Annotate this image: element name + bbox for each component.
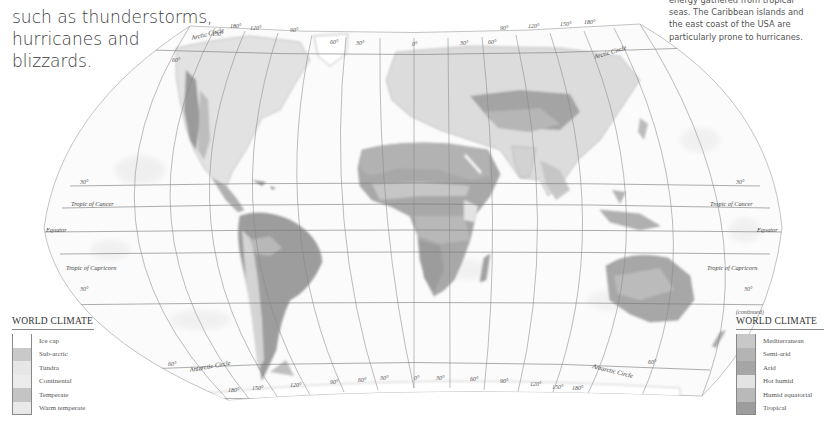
lon-label: 180° [584,19,596,25]
legend-item-tundra: Tundra [12,361,94,375]
legend-label: Tundra [39,364,59,372]
lon-label: 120° [530,381,542,387]
legend-item-humid-equatorial: Humid equatorial [736,388,824,402]
lon-label: 180° [228,387,240,393]
lon-label: 120° [528,23,540,29]
label-lat-30s-left: 30° [79,286,89,292]
legend-world-climate: WORLD CLIMATE Ice cap Sub-arctic Tundra … [12,316,94,415]
legend-item-mediterranean: Mediterranean [736,334,824,348]
legend-item-temperate: Temperate [12,388,94,402]
label-tropic-of-cancer-right: Tropic of Cancer [710,200,753,207]
legend-label: Semi-arid [763,350,791,358]
swatch-continental [12,375,32,389]
legend-item-sub-arctic: Sub-arctic [12,348,94,362]
legend-label: Mediterranean [763,337,804,345]
swatch-arid [736,361,756,375]
lon-label: 60° [330,39,339,45]
legend-item-tropical: Tropical [736,402,824,416]
legend-label: Arid [763,364,776,372]
label-tropic-of-capricorn-left: Tropic of Capricorn [66,264,117,271]
lon-label: 60° [470,376,479,382]
label-lat-60s-right: 60° [648,359,657,365]
legend-label: Temperate [39,391,68,399]
lon-label: 0° [412,41,418,47]
legend-item-continental: Continental [12,375,94,389]
lon-label: 90° [500,378,509,384]
legend-label: Tropical [763,404,786,412]
legend-label: Ice cap [39,337,59,345]
lon-label: 150° [212,31,224,37]
legend-label: Humid equatorial [763,391,812,399]
lon-label: 0° [414,375,420,381]
swatch-ice-cap [12,334,32,348]
lon-label: 90° [500,25,509,31]
legend-label: Sub-arctic [39,350,68,358]
lon-label: 30° [435,375,445,381]
legend-label: Warm temperate [39,404,85,412]
legend-item-semi-arid: Semi-arid [736,348,824,362]
legend-world-climate-continued: (continued) WORLD CLIMATE Mediterranean … [736,309,824,415]
swatch-tundra [12,361,32,375]
lon-label: 180° [572,385,584,391]
swatch-temperate [12,388,32,402]
lon-label: 60° [488,39,497,45]
legend-title: WORLD CLIMATE [12,316,94,330]
label-equator-left: Equator [45,226,67,233]
lon-label: 30° [459,40,469,46]
label-tropic-of-cancer-left: Tropic of Cancer [71,200,114,207]
lon-label: 180° [230,23,242,29]
swatch-hot-humid [736,375,756,389]
lon-label: 60° [358,377,367,383]
legend-item-arid: Arid [736,361,824,375]
swatch-semi-arid [736,348,756,362]
label-lat-30s-right: 30° [743,286,753,292]
label-lat-60s-left: 60° [168,361,177,367]
legend-continued-note: (continued) [736,309,824,316]
label-lat-60n-left: 60° [172,57,181,63]
swatch-humid-equatorial [736,388,756,402]
lon-label: 120° [290,382,302,388]
lon-label: 150° [560,21,572,27]
legend-label: Continental [39,377,72,385]
lon-label: 90° [290,27,299,33]
swatch-warm-temperate [12,402,32,416]
legend-item-warm-temperate: Warm temperate [12,402,94,416]
world-climate-map: Arctic Circle Arctic Circle Tropic of Ca… [0,0,828,422]
legend-item-hot-humid: Hot humid [736,375,824,389]
label-lat-30n-right: 30° [735,179,745,185]
legend-label: Hot humid [763,377,793,385]
lon-label: 30° [355,40,365,46]
map-graticule: Arctic Circle Arctic Circle Tropic of Ca… [0,0,828,422]
swatch-mediterranean [736,334,756,348]
lon-label: 150° [552,384,564,390]
lon-label: 150° [252,385,264,391]
swatch-sub-arctic [12,348,32,362]
label-lat-30n-left: 30° [79,179,89,185]
label-equator-right: Equator [756,226,778,233]
lon-label: 120° [250,25,262,31]
swatch-tropical [736,402,756,416]
legend-item-ice-cap: Ice cap [12,334,94,348]
lon-label: 30° [379,375,389,381]
label-tropic-of-capricorn-right: Tropic of Capricorn [707,264,758,271]
legend-title: WORLD CLIMATE [736,316,824,330]
lon-label: 90° [330,379,339,385]
